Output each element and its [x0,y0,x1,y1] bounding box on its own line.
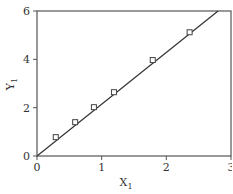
data-markers [53,30,192,140]
square-marker-icon [187,30,192,35]
plot-frame [37,11,231,156]
y-axis-ticks: 0246 [23,5,37,163]
x-tick-label: 0 [34,161,41,174]
square-marker-icon [53,135,58,140]
square-marker-icon [73,120,78,125]
x-axis-label: X1 [120,176,133,191]
square-marker-icon [91,105,96,110]
square-marker-icon [150,58,155,63]
plot-border [37,11,231,156]
x-tick-label: 2 [163,161,170,174]
x-axis-ticks: 0123 [34,156,233,174]
y-tick-label: 4 [23,53,30,66]
y-tick-label: 6 [23,5,30,18]
y-axis-label: Y1 [4,78,19,91]
y-tick-label: 0 [23,150,30,163]
chart-canvas: 0246 0123 X1 Y1 [0,0,232,194]
y-tick-label: 2 [23,102,30,115]
x-tick-label: 3 [228,161,233,174]
x-tick-label: 1 [98,161,105,174]
square-marker-icon [111,90,116,95]
